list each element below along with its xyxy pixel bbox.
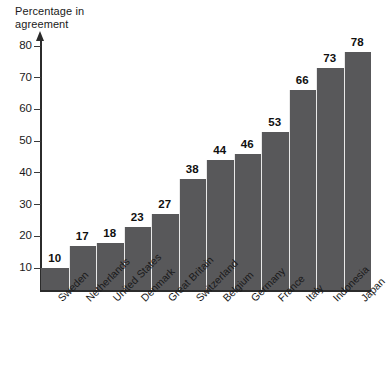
bar-value-label: 46 bbox=[230, 139, 266, 151]
bar-value-label: 10 bbox=[37, 253, 73, 265]
bar-value-label: 18 bbox=[92, 228, 128, 240]
bar-value-label: 23 bbox=[120, 212, 156, 224]
bar-value-label: 73 bbox=[312, 53, 348, 65]
bar-value-label: 78 bbox=[340, 37, 376, 49]
bar bbox=[261, 132, 289, 290]
bar bbox=[289, 90, 317, 290]
bar-value-label: 53 bbox=[257, 117, 293, 129]
bar bbox=[344, 52, 372, 290]
bar-value-label: 27 bbox=[147, 199, 183, 211]
bar bbox=[316, 68, 344, 290]
bar-value-label: 66 bbox=[285, 75, 321, 87]
bar-value-label: 38 bbox=[175, 164, 211, 176]
